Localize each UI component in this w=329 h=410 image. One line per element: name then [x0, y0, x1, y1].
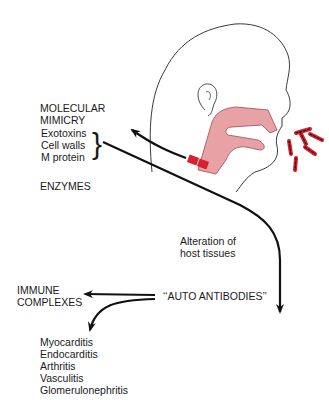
enzymes-label: ENZYMES — [40, 180, 91, 192]
disease-item: Vasculitis — [40, 372, 128, 384]
diseases-list: Myocarditis Endocarditis Arthritis Vascu… — [40, 336, 128, 396]
disease-item: Glomerulonephritis — [40, 384, 128, 396]
mimicry-item: Exotoxins — [41, 127, 87, 139]
arrow-to-auto-antibodies — [103, 142, 280, 312]
ear-outline — [198, 84, 217, 116]
alteration-label: Alteration of host tissues — [180, 235, 236, 259]
molecular-mimicry-title: MOLECULAR MIMICRY — [40, 102, 105, 126]
disease-item: Arthritis — [40, 360, 128, 372]
arrow-to-mimicry — [132, 130, 186, 158]
arrow-to-immune-complexes — [85, 294, 155, 295]
disease-item: Myocarditis — [40, 336, 128, 348]
arrow-to-diseases — [90, 299, 155, 330]
disease-item: Endocarditis — [40, 348, 128, 360]
immune-complexes-label: IMMUNE COMPLEXES — [17, 284, 82, 308]
auto-antibodies-label: ‘‘AUTO ANTIBODIES’’ — [163, 290, 267, 302]
mimicry-item: Cell walls — [41, 139, 87, 151]
mimicry-item: M protein — [41, 151, 87, 163]
airway-icon — [198, 107, 277, 174]
brace: } — [92, 126, 102, 162]
mimicry-items: Exotoxins Cell walls M protein — [41, 127, 87, 163]
bacteria-icon — [289, 129, 322, 170]
